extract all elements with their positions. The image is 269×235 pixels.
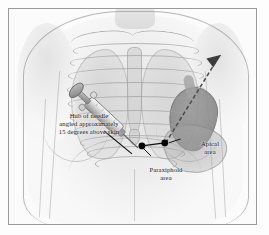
- needle-angle-note: Hub of needle angled approximately 15 de…: [41, 112, 137, 137]
- paraxiphoid-leader: [144, 149, 151, 156]
- paraxiphoid-site-marker[interactable]: [139, 143, 146, 150]
- medical-illustration-figure: Hub of needle angled approximately 15 de…: [0, 0, 269, 235]
- paraxiphoid-area-label: Paraxiphoid area: [139, 166, 193, 182]
- apical-site-marker[interactable]: [161, 140, 168, 147]
- illustration-frame: Hub of needle angled approximately 15 de…: [8, 8, 257, 225]
- marker-connector: [142, 143, 165, 146]
- apical-area-label: Apical area: [191, 140, 229, 156]
- arrow-shaft: [166, 63, 216, 143]
- apical-leader: [169, 139, 181, 143]
- arrow-head: [206, 55, 221, 68]
- needle-trajectory-arrow: [166, 55, 222, 143]
